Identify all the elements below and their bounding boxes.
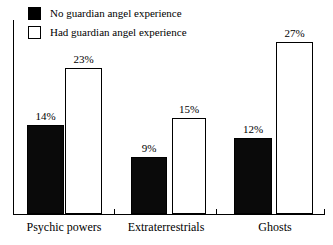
bar-ghosts-had-experience <box>276 42 313 214</box>
bar-extraterrestrials-no-experience <box>131 157 167 214</box>
bar-extraterrestrials-had-experience <box>172 118 206 214</box>
bar-value-label: 15% <box>172 103 206 115</box>
bar-value-label: 9% <box>131 142 167 154</box>
bar-value-label: 12% <box>234 123 272 135</box>
x-axis-line <box>13 214 325 215</box>
y-axis-line <box>13 20 14 215</box>
x-axis-tick <box>114 209 115 215</box>
x-axis-label-extraterrestrials: Extraterrestrials <box>116 220 216 234</box>
bar-value-label: 14% <box>27 110 64 122</box>
bar-chart: No guardian angel experience Had guardia… <box>0 0 333 245</box>
bar-value-label: 23% <box>65 53 102 65</box>
bar-ghosts-no-experience <box>234 138 272 214</box>
bar-psychic-powers-no-experience <box>27 125 64 214</box>
x-axis-tick <box>216 209 217 215</box>
bar-value-label: 27% <box>276 27 313 39</box>
x-axis-tick <box>324 209 325 215</box>
plot-area: 14% 23% 9% 15% 12% 27% Psychic powers Ex… <box>0 0 333 245</box>
x-axis-label-ghosts: Ghosts <box>225 220 325 234</box>
x-axis-label-psychic-powers: Psychic powers <box>14 220 114 234</box>
bar-psychic-powers-had-experience <box>65 68 102 214</box>
x-axis-tick <box>13 209 14 215</box>
